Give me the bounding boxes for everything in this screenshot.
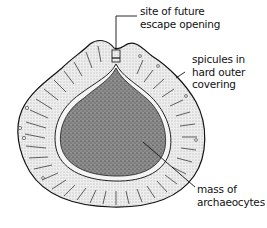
label-spicules-line3: covering [192, 78, 245, 91]
leader-spicules [176, 72, 185, 78]
label-archaeocytes: mass of archaeocytes [197, 183, 265, 208]
label-archaeocytes-line2: archaeocytes [197, 196, 265, 209]
label-escape-opening: site of future escape opening [140, 5, 220, 30]
label-escape-opening-line2: escape opening [140, 18, 220, 31]
label-archaeocytes-line1: mass of [197, 183, 265, 196]
label-spicules-line1: spicules in [192, 53, 245, 66]
label-escape-opening-line1: site of future [140, 5, 220, 18]
escape-opening-plug [112, 50, 120, 62]
label-spicules: spicules in hard outer covering [192, 53, 245, 91]
label-spicules-line2: hard outer [192, 66, 245, 79]
